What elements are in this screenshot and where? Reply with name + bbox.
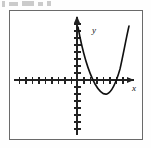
scan-artifact-mark — [2, 1, 5, 7]
parabola-curve — [78, 26, 129, 94]
scan-artifact — [0, 0, 151, 9]
graph-frame: y — [9, 10, 143, 140]
scan-artifact-mark — [9, 2, 18, 6]
y-axis-arrow — [74, 16, 80, 23]
figure-container: y x — [0, 0, 151, 148]
axes — [14, 17, 134, 135]
graph-plot — [10, 11, 142, 139]
scan-artifact-mark — [47, 1, 51, 6]
x-axis-label: x — [132, 84, 136, 93]
y-axis-label: y — [92, 26, 96, 35]
scan-artifact-mark — [38, 2, 43, 6]
scan-artifact-mark — [22, 1, 34, 6]
